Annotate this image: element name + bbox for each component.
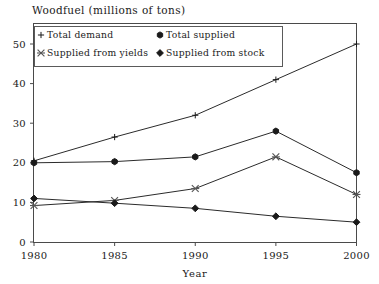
hexagon-marker-icon	[112, 159, 117, 165]
y-tick-label: 20	[13, 157, 26, 168]
x-tick-label: 1990	[182, 250, 209, 261]
hexagon-marker-icon	[157, 32, 162, 38]
chart-legend: Total demandTotal suppliedSupplied from …	[35, 27, 283, 67]
legend-label: Total demand	[47, 29, 113, 40]
y-tick-label: 0	[19, 237, 26, 248]
legend-label: Supplied from stock	[166, 47, 265, 58]
legend-label: Total supplied	[166, 29, 235, 40]
y-tick-label: 40	[13, 78, 26, 89]
y-tick-label: 30	[13, 118, 26, 129]
woodfuel-line-chart: Woodfuel (millions of tons) 01020304050 …	[0, 0, 379, 284]
hexagon-marker-icon	[193, 154, 198, 160]
x-tick-label: 1995	[263, 250, 290, 261]
x-axis-label: Year	[182, 268, 208, 279]
legend-label: Supplied from yields	[47, 47, 148, 58]
hexagon-marker-icon	[354, 170, 359, 176]
legend-item: Supplied from stock	[157, 47, 265, 58]
legend-item: Total supplied	[157, 29, 235, 40]
hexagon-marker-icon	[31, 160, 36, 166]
x-tick-label: 1980	[21, 250, 48, 261]
x-tick-label: 2000	[343, 250, 370, 261]
chart-title: Woodfuel (millions of tons)	[32, 4, 185, 16]
y-tick-label: 50	[13, 39, 26, 50]
legend-item: Total demand	[38, 29, 113, 40]
x-tick-label: 1985	[101, 250, 128, 261]
y-tick-label: 10	[13, 197, 26, 208]
hexagon-marker-icon	[273, 128, 278, 134]
legend-item: Supplied from yields	[37, 47, 148, 58]
